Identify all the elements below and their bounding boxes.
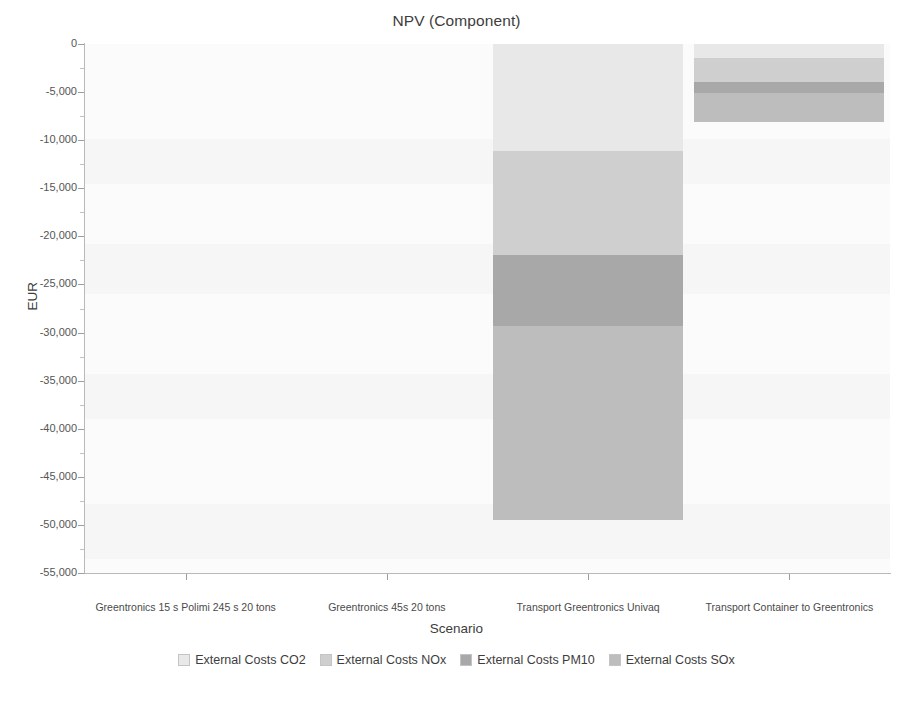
legend-swatch-icon bbox=[178, 654, 190, 666]
plot-band bbox=[85, 374, 890, 419]
legend-item[interactable]: External Costs NOx bbox=[320, 653, 447, 667]
y-axis-tick-label: -55,000 bbox=[7, 566, 77, 578]
y-axis-minor-tick bbox=[80, 357, 84, 358]
y-axis-tick bbox=[78, 573, 84, 574]
y-axis-tick bbox=[78, 44, 84, 45]
y-axis-minor-tick bbox=[80, 212, 84, 213]
x-axis-tick bbox=[789, 574, 790, 580]
y-axis-tick-label: -10,000 bbox=[7, 133, 77, 145]
y-axis-minor-tick bbox=[80, 164, 84, 165]
x-axis-tick-label: Greentronics 15 s Polimi 245 s 20 tons bbox=[85, 601, 286, 613]
bar-segment[interactable] bbox=[493, 151, 683, 255]
y-axis-minor-tick bbox=[80, 549, 84, 550]
legend-item[interactable]: External Costs CO2 bbox=[178, 653, 305, 667]
y-axis-tick-label: -30,000 bbox=[7, 326, 77, 338]
y-axis-minor-tick bbox=[80, 501, 84, 502]
y-axis-title: EUR bbox=[25, 291, 40, 311]
x-axis-tick-label: Transport Greentronics Univaq bbox=[488, 601, 689, 613]
y-axis-tick-label: -15,000 bbox=[7, 181, 77, 193]
y-axis-tick bbox=[78, 333, 84, 334]
x-axis-title: Scenario bbox=[0, 621, 913, 636]
y-axis-minor-tick bbox=[80, 405, 84, 406]
bar-segment[interactable] bbox=[493, 255, 683, 326]
y-axis-minor-tick bbox=[80, 260, 84, 261]
y-axis-minor-tick bbox=[80, 309, 84, 310]
legend-label: External Costs CO2 bbox=[195, 653, 305, 667]
plot-band bbox=[85, 244, 890, 294]
legend-label: External Costs NOx bbox=[337, 653, 447, 667]
x-axis-tick bbox=[387, 574, 388, 580]
y-axis-minor-tick bbox=[80, 453, 84, 454]
y-axis-tick bbox=[78, 140, 84, 141]
y-axis-tick-label: 0 bbox=[7, 37, 77, 49]
y-axis-tick-label: -25,000 bbox=[7, 277, 77, 289]
y-axis-tick bbox=[78, 381, 84, 382]
x-axis-line bbox=[84, 573, 891, 574]
chart-title: NPV (Component) bbox=[0, 12, 913, 30]
y-axis-minor-tick bbox=[80, 68, 84, 69]
legend-swatch-icon bbox=[320, 654, 332, 666]
y-axis-tick-label: -20,000 bbox=[7, 229, 77, 241]
y-axis-minor-tick bbox=[80, 116, 84, 117]
y-axis-tick bbox=[78, 525, 84, 526]
bar-segment[interactable] bbox=[694, 93, 884, 122]
bar-segment[interactable] bbox=[694, 82, 884, 94]
chart-page: NPV (Component) EUR Scenario 0-5,000-10,… bbox=[0, 0, 913, 701]
legend-label: External Costs SOx bbox=[626, 653, 735, 667]
legend-label: External Costs PM10 bbox=[477, 653, 594, 667]
y-axis-tick bbox=[78, 429, 84, 430]
y-axis-tick-label: -35,000 bbox=[7, 374, 77, 386]
legend-item[interactable]: External Costs SOx bbox=[609, 653, 735, 667]
bar-segment[interactable] bbox=[493, 326, 683, 520]
x-axis-tick bbox=[186, 574, 187, 580]
bar-segment[interactable] bbox=[493, 44, 683, 151]
bar-segment[interactable] bbox=[694, 58, 884, 81]
plot-band bbox=[85, 139, 890, 184]
y-axis-line bbox=[84, 43, 85, 574]
y-axis-tick bbox=[78, 188, 84, 189]
y-axis-tick-label: -40,000 bbox=[7, 422, 77, 434]
x-axis-tick-label: Transport Container to Greentronics bbox=[689, 601, 890, 613]
y-axis-tick bbox=[78, 284, 84, 285]
legend-item[interactable]: External Costs PM10 bbox=[460, 653, 594, 667]
y-axis-tick bbox=[78, 477, 84, 478]
chart-legend: External Costs CO2External Costs NOxExte… bbox=[0, 653, 913, 667]
x-axis-tick-label: Greentronics 45s 20 tons bbox=[286, 601, 487, 613]
bar-segment[interactable] bbox=[694, 44, 884, 58]
y-axis-tick-label: -50,000 bbox=[7, 518, 77, 530]
y-axis-tick bbox=[78, 236, 84, 237]
plot-area bbox=[85, 44, 890, 573]
legend-swatch-icon bbox=[460, 654, 472, 666]
y-axis-tick-label: -45,000 bbox=[7, 470, 77, 482]
x-axis-tick bbox=[588, 574, 589, 580]
plot-band bbox=[85, 504, 890, 559]
legend-swatch-icon bbox=[609, 654, 621, 666]
y-axis-tick bbox=[78, 92, 84, 93]
y-axis-tick-label: -5,000 bbox=[7, 85, 77, 97]
